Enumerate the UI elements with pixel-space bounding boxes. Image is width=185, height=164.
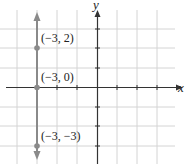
line-arrow-down-icon [34, 151, 41, 160]
point-neg3-0 [34, 85, 40, 91]
label-point-neg3-0: (−3, 0) [41, 70, 74, 84]
point-neg3-2 [34, 45, 40, 51]
y-axis-label: y [91, 0, 99, 12]
label-point-neg3-neg3: (−3, −3) [41, 129, 81, 143]
vertical-line-x-neg3 [34, 12, 41, 160]
line-arrow-up-icon [34, 12, 41, 21]
label-point-neg3-2: (−3, 2) [41, 31, 74, 45]
coordinate-plane: x y (−3, 2) (−3, 0) (−3, −3) [0, 0, 185, 164]
y-axis: y [91, 0, 101, 164]
x-axis-label: x [177, 80, 184, 95]
point-neg3-neg3 [34, 143, 40, 149]
